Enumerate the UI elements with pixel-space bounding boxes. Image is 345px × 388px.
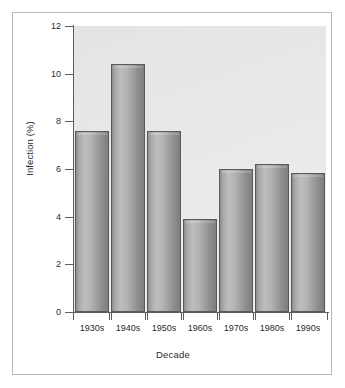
x-tick-mark (145, 313, 146, 320)
x-tick-label: 1960s (188, 323, 213, 333)
bar-top-highlight (293, 175, 323, 177)
bar (147, 131, 181, 312)
bar-chart: 024681012 1930s1940s1950s1960s1970s1980s… (13, 13, 333, 376)
x-tick-mark (183, 313, 184, 320)
x-tick-mark (217, 313, 218, 320)
y-tick-mark (65, 121, 73, 122)
x-tick-mark (255, 313, 256, 320)
y-axis-line (73, 25, 74, 313)
y-tick-label: 12 (13, 21, 61, 31)
x-axis-title: Decade (13, 349, 333, 360)
bar-top-highlight (113, 66, 143, 68)
y-tick-mark (65, 312, 73, 313)
x-tick-label: 1950s (152, 323, 177, 333)
x-tick-mark (291, 313, 292, 320)
bar (291, 173, 325, 312)
x-tick-label: 1980s (260, 323, 285, 333)
bar (183, 219, 217, 312)
bar-top-highlight (257, 166, 287, 168)
x-tick-mark (147, 313, 148, 320)
x-tick-mark (327, 313, 328, 320)
bar (255, 164, 289, 312)
x-tick-mark (253, 313, 254, 320)
y-tick-label: 2 (13, 259, 61, 269)
bar (219, 169, 253, 312)
y-tick-mark (65, 217, 73, 218)
x-tick-mark (181, 313, 182, 320)
x-tick-label: 1970s (224, 323, 249, 333)
x-tick-mark (73, 313, 74, 320)
y-tick-mark (65, 264, 73, 265)
figure-frame: 024681012 1930s1940s1950s1960s1970s1980s… (12, 12, 332, 375)
y-tick-mark (65, 26, 73, 27)
y-tick-mark (65, 169, 73, 170)
bar (75, 131, 109, 312)
y-tick-mark (65, 74, 73, 75)
x-tick-mark (111, 313, 112, 320)
x-tick-mark (289, 313, 290, 320)
x-tick-label: 1930s (80, 323, 105, 333)
x-tick-mark (109, 313, 110, 320)
y-tick-label: 0 (13, 307, 61, 317)
y-tick-label: 8 (13, 116, 61, 126)
x-tick-label: 1940s (116, 323, 141, 333)
bar-top-highlight (77, 133, 107, 135)
bar-top-highlight (221, 171, 251, 173)
y-tick-label: 4 (13, 212, 61, 222)
y-tick-label: 10 (13, 69, 61, 79)
y-axis-title: Infection (%) (24, 89, 35, 209)
bar-top-highlight (149, 133, 179, 135)
bar-top-highlight (185, 221, 215, 223)
y-tick-label: 6 (13, 164, 61, 174)
x-tick-label: 1990s (296, 323, 321, 333)
x-tick-mark (219, 313, 220, 320)
bar (111, 64, 145, 312)
